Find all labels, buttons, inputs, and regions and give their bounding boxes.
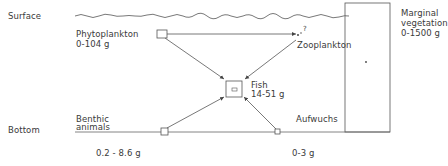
zooplankton-question-mark: ? [303, 24, 307, 34]
vegetation-biomass: 0-1500 g [401, 28, 440, 38]
zooplankton-dot [300, 32, 301, 33]
arrow-phyto-to-fish [165, 38, 224, 79]
vegetation-label-line2: vegetation [401, 18, 448, 28]
benthic-box [161, 128, 168, 135]
bottom-label: Bottom [8, 125, 40, 135]
vegetation-dot [365, 61, 367, 63]
zooplankton-label: Zooplankton [297, 40, 352, 50]
arrow-benthic-to-fish [167, 97, 224, 128]
arrow-aufwuchs-to-fish [244, 97, 276, 129]
benthic-label-line2: animals [76, 122, 110, 132]
fish-biomass: 14-51 g [251, 89, 285, 99]
surface-label: Surface [8, 11, 41, 21]
aufwuchs-label: Aufwuchs [296, 114, 338, 124]
phytoplankton-biomass: 0-104 g [76, 39, 110, 49]
fish-box [226, 81, 242, 97]
zooplankton-dot [297, 34, 299, 36]
marginal-vegetation-box [345, 3, 390, 132]
aufwuchs-biomass: 0-3 g [292, 148, 314, 158]
aufwuchs-box [275, 129, 280, 134]
surface-wave-line [75, 13, 349, 19]
vegetation-label-line1: Marginal [401, 8, 438, 18]
phytoplankton-label: Phytoplankton [76, 29, 139, 39]
arrow-zoo-to-fish [245, 40, 296, 79]
benthic-biomass: 0.2 - 8.6 g [96, 148, 141, 158]
phytoplankton-box [157, 30, 167, 38]
